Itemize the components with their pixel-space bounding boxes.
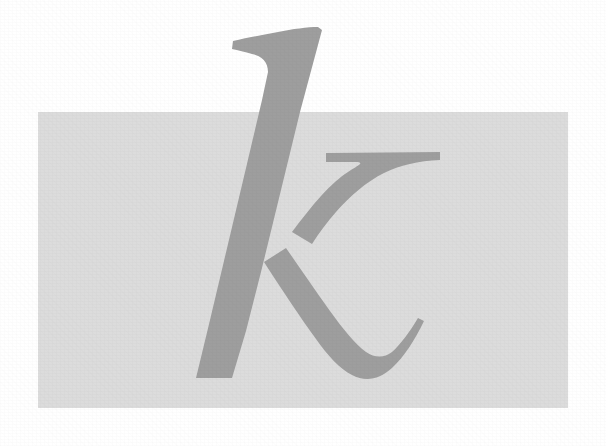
letter-k-artwork	[0, 0, 606, 446]
page-canvas: k	[0, 0, 606, 446]
scan-grain-overlay	[0, 0, 606, 446]
